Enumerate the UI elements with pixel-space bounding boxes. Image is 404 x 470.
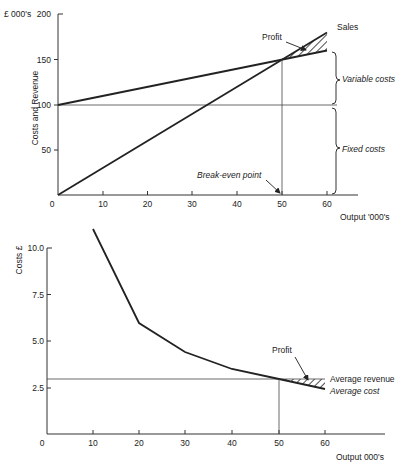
y-axis-title: Costs £: [14, 245, 24, 274]
x-tick-label: 50: [274, 438, 284, 448]
average-cost-curve: [93, 229, 325, 389]
chart-canvas: 200 150 100 50 0 10 20 30 40 50 60 £ 000…: [0, 0, 404, 470]
y-tick-label: 10.0: [27, 243, 44, 253]
sales-line: [58, 33, 327, 196]
y-tick-label: 5.0: [32, 336, 44, 346]
fixed-costs-brace: [332, 108, 340, 194]
y-tick-label: 2.5: [32, 383, 44, 393]
variable-costs-brace: [332, 52, 340, 104]
break-even-chart: 200 150 100 50 0 10 20 30 40 50 60 £ 000…: [4, 9, 396, 222]
break-even-arrow: [266, 180, 280, 193]
y-tick-label: 7.5: [32, 290, 44, 300]
x-tick-label: 10: [98, 199, 108, 209]
average-cost-label: Average cost: [329, 386, 380, 396]
x-tick-label: 30: [180, 438, 190, 448]
x-axis-title: Output '000's: [340, 212, 390, 222]
x-tick-label: 20: [143, 199, 153, 209]
x-tick-label: 20: [134, 438, 144, 448]
profit-arrow: [295, 357, 308, 380]
x-tick-label: 60: [322, 199, 332, 209]
y-ticks: 10.0 7.5 5.0 2.5: [27, 243, 52, 393]
average-revenue-label: Average revenue: [330, 374, 395, 384]
x-tick-label: 50: [277, 199, 287, 209]
x-ticks: 0 10 20 30 40 50 60: [40, 430, 330, 448]
x-axis-title: Output 000's: [336, 452, 384, 462]
sales-label: Sales: [337, 22, 358, 32]
x-ticks: 0 10 20 30 40 50 60: [50, 191, 332, 209]
y-unit-label: £ 000's: [4, 9, 31, 19]
total-cost-line: [58, 51, 327, 106]
break-even-label: Break-even point: [197, 170, 262, 180]
y-tick-label: 200: [37, 9, 51, 19]
x-tick-label: 10: [88, 438, 98, 448]
y-tick-label: 150: [37, 55, 51, 65]
y-axis-title: Costs and Revenue: [30, 70, 40, 145]
y-ticks: 200 150 100 50: [37, 9, 63, 155]
origin-label: 0: [40, 438, 45, 448]
average-cost-chart: 10.0 7.5 5.0 2.5 0 10 20 30 40 50 60 Cos…: [14, 229, 395, 462]
x-tick-label: 30: [187, 199, 197, 209]
profit-label: Profit: [272, 345, 292, 355]
origin-label: 0: [50, 199, 55, 209]
x-tick-label: 40: [227, 438, 237, 448]
x-tick-label: 40: [232, 199, 242, 209]
profit-label: Profit: [262, 32, 282, 42]
variable-costs-label: Variable costs: [342, 74, 396, 84]
y-tick-label: 50: [42, 145, 52, 155]
x-tick-label: 60: [320, 438, 330, 448]
fixed-costs-label: Fixed costs: [342, 144, 386, 154]
